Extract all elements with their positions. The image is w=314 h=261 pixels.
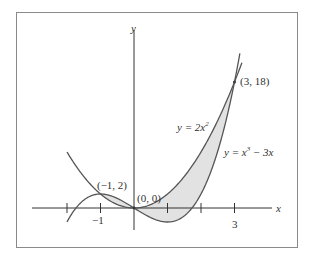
parabola-equation-label: y = 2x2 xyxy=(177,122,209,133)
parabola-eq-exponent: 2 xyxy=(205,120,209,128)
point-label-neg1-2: (−1, 2) xyxy=(97,180,127,191)
point-label-3-18: (3, 18) xyxy=(240,76,269,87)
point-marker-3-18 xyxy=(233,80,236,83)
parabola-eq-text: y = 2x xyxy=(177,121,205,133)
y-axis-label: y xyxy=(131,23,136,34)
plot-area xyxy=(0,0,314,261)
point-label-origin: (0, 0) xyxy=(137,193,161,204)
tick-label-3: 3 xyxy=(232,219,238,230)
x-axis-label: x xyxy=(276,203,281,214)
shaded-region xyxy=(101,82,235,222)
cubic-equation-label: y = x3 − 3x xyxy=(224,147,274,158)
cubic-eq-text: y = x xyxy=(224,146,247,158)
tick-label-neg1: −1 xyxy=(92,215,104,226)
point-marker-origin xyxy=(133,207,136,210)
cubic-eq-exponent: 3 xyxy=(247,145,251,153)
cubic-eq-suffix: − 3x xyxy=(250,146,273,158)
